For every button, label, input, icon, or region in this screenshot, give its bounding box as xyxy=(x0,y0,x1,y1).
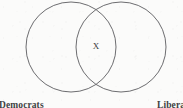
set-label-right: Liberals xyxy=(157,100,183,108)
x-mark: X xyxy=(90,40,102,53)
venn-diagram-figure: X Democrats Liberals xyxy=(0,0,183,108)
venn-circle-left xyxy=(26,2,116,92)
venn-diagram-canvas xyxy=(0,0,183,108)
set-label-left: Democrats xyxy=(0,100,44,108)
